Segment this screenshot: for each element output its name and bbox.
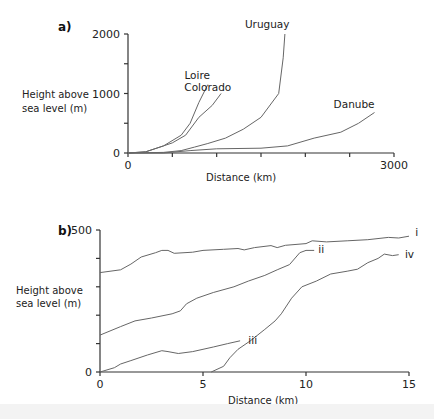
- series-line-loire: [128, 85, 208, 153]
- y-tick-label: 1000: [92, 88, 120, 101]
- series-label-ii: ii: [318, 243, 324, 255]
- panel-a-river-profiles: a) Height above sea level (m) Distance (…: [22, 18, 408, 183]
- panel-a-label: a): [58, 20, 72, 34]
- series-line-danube: [128, 113, 375, 154]
- panel-a-xlabel: Distance (km): [206, 172, 276, 183]
- x-tick-label: 15: [402, 378, 416, 391]
- series-label-loire: Loire: [184, 69, 210, 81]
- x-tick-label: 0: [125, 159, 132, 172]
- x-tick-label: 5: [200, 378, 207, 391]
- x-tick-label: 0: [97, 378, 104, 391]
- y-tick-label: 2000: [92, 28, 120, 41]
- figure: a) Height above sea level (m) Distance (…: [0, 0, 434, 419]
- series-label-i: i: [415, 226, 418, 238]
- y-tick-label: 500: [71, 224, 92, 237]
- panel-a-ylabel-line2: sea level (m): [22, 103, 87, 114]
- series-line-i: [100, 236, 409, 272]
- series-label-iv: iv: [405, 248, 414, 260]
- series-label-danube: Danube: [334, 98, 375, 110]
- x-tick-label: 10: [299, 378, 313, 391]
- panel-b-ylabel-line1: Height above: [16, 285, 83, 296]
- series-line-iii: [100, 341, 240, 372]
- panel-a-series-labels: LoireColoradoUruguayDanube: [184, 18, 374, 110]
- series-line-uruguay: [128, 34, 285, 153]
- panel-b-label: b): [58, 224, 72, 238]
- panel-a-curves: [128, 34, 375, 153]
- x-tick-label: 3000: [380, 159, 408, 172]
- series-label-uruguay: Uruguay: [245, 18, 290, 30]
- panel-b-ylabel-line2: sea level (m): [16, 298, 81, 309]
- panel-b-series-labels: iiiiiiiv: [248, 226, 418, 345]
- bottom-margin-band: [0, 404, 434, 419]
- series-line-iv: [211, 254, 399, 372]
- series-label-iii: iii: [248, 334, 257, 346]
- panel-b-stream-profiles: b) Height above sea level (m) Distance (…: [16, 224, 418, 406]
- panel-a-ylabel-line1: Height above: [22, 89, 89, 100]
- panel-b-curves: [100, 236, 409, 372]
- panel-b-axes: 0500051015: [71, 224, 416, 391]
- y-tick-label: 0: [113, 147, 120, 160]
- series-label-colorado: Colorado: [184, 81, 231, 93]
- y-tick-label: 0: [85, 366, 92, 379]
